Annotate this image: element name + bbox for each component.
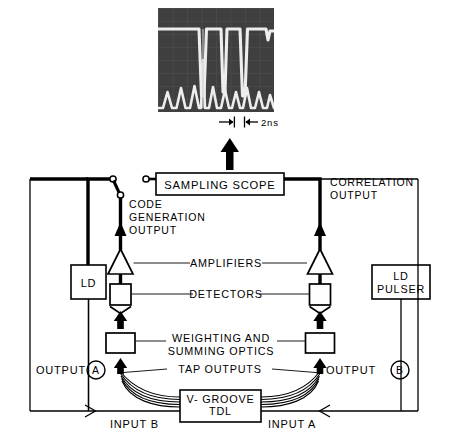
- optics-to-detector-arrow-right: [313, 311, 326, 329]
- weighting-summing-optics-right: [306, 333, 335, 353]
- output-a-text: OUTPUT: [36, 364, 86, 376]
- detector-left: [110, 284, 131, 314]
- correlation-output-label-line1: CORRELATION: [330, 176, 414, 188]
- output-b-tag: B: [396, 364, 404, 376]
- tap-fiber-bundle-right: [261, 371, 320, 407]
- timebase-label: 2ns: [261, 117, 279, 128]
- code-generation-output-label-line1: CODE: [129, 198, 163, 210]
- correlation-output-arrowhead: [314, 222, 326, 236]
- sampling-scope-label: SAMPLING SCOPE: [164, 179, 275, 191]
- input-b-label: INPUT B: [110, 418, 159, 430]
- optics-to-detector-arrow-left: [114, 311, 127, 329]
- ld-pulser-block: LD PULSER: [372, 265, 430, 299]
- amplifier-left: [108, 249, 133, 274]
- ld-pulser-label-line1: LD: [393, 270, 408, 282]
- tap-point-right: [317, 368, 322, 373]
- sampling-scope-trace-photo: 2ns: [158, 8, 279, 128]
- output-b-text: OUTPUT: [326, 364, 376, 376]
- weighting-optics-label-line2: SUMMING OPTICS: [168, 345, 275, 357]
- optical-correlator-diagram: 2ns SAMPLING SCOPE CODE GENERATION OUTPU…: [0, 0, 451, 445]
- scope-input-terminal[interactable]: [143, 176, 149, 182]
- amplifier-right: [308, 249, 333, 274]
- tap-point-left: [118, 368, 123, 373]
- ld-to-switch-wire: [88, 179, 111, 265]
- tap-fiber-bundle-left: [120, 371, 180, 407]
- timebase-marker: [219, 117, 258, 128]
- output-a-tag: A: [92, 364, 100, 376]
- sampling-scope-block: SAMPLING SCOPE: [156, 173, 284, 195]
- detector-right: [310, 284, 331, 314]
- correlation-output-wire: [284, 179, 320, 250]
- correlation-output-label-line2: OUTPUT: [330, 189, 378, 201]
- ld-label: LD: [81, 277, 97, 289]
- tdl-label-line1: V- GROOVE: [187, 393, 255, 405]
- scope-to-photo-arrow: [221, 138, 240, 170]
- tap-outputs-leader-left: [117, 369, 167, 373]
- output-b-marker: OUTPUT B: [326, 361, 409, 379]
- code-generation-output-label-line3: OUTPUT: [129, 224, 177, 236]
- v-groove-tdl-block: V- GROOVE TDL: [180, 390, 261, 422]
- output-a-marker: OUTPUT A: [36, 361, 105, 379]
- tap-outputs-label: TAP OUTPUTS: [178, 363, 261, 375]
- code-generation-output-label-line2: GENERATION: [129, 211, 206, 223]
- tdl-label-line2: TDL: [209, 405, 232, 417]
- input-a-label: INPUT A: [268, 418, 316, 430]
- weighting-optics-label-line1: WEIGHTING AND: [172, 332, 270, 344]
- code-generation-arrowhead: [115, 222, 127, 236]
- amplifiers-label: AMPLIFIERS: [190, 257, 262, 269]
- tap-outputs-leader-right: [272, 369, 322, 373]
- scope-input-selector-switch[interactable]: [110, 176, 124, 198]
- detectors-label: DETECTORS: [189, 288, 263, 300]
- ld-block: LD: [71, 265, 106, 299]
- switch-terminal-lower[interactable]: [117, 192, 123, 198]
- switch-blade[interactable]: [114, 181, 120, 194]
- weighting-summing-optics-left: [106, 333, 135, 353]
